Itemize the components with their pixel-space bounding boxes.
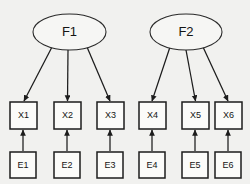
- error-node-e2[interactable]: E2: [54, 152, 80, 178]
- error-node-e6[interactable]: E6: [215, 152, 241, 178]
- observed-node-label: X6: [223, 110, 234, 120]
- diagram-canvas: F1F2 X1X2X3X4X5X6 E1E2E3E4E5E6: [0, 0, 250, 184]
- loading-path-f2-to-x4: [152, 47, 170, 101]
- latent-node-f1[interactable]: F1: [33, 14, 106, 50]
- observed-node-x2[interactable]: X2: [54, 102, 81, 129]
- latent-factor-nodes: F1F2: [33, 14, 222, 50]
- error-node-label: E3: [104, 160, 115, 170]
- loading-path-f2-to-x5: [186, 50, 196, 101]
- loading-path-f1-to-x1: [24, 47, 52, 101]
- observed-node-x1[interactable]: X1: [10, 102, 37, 129]
- observed-variable-nodes: X1X2X3X4X5X6: [10, 102, 242, 129]
- observed-node-label: X3: [105, 110, 116, 120]
- loading-path-f1-to-x2: [68, 50, 69, 101]
- factor-loading-paths: [24, 47, 228, 101]
- loading-path-f1-to-x3: [87, 47, 110, 101]
- observed-node-x3[interactable]: X3: [97, 102, 124, 129]
- error-node-e1[interactable]: E1: [10, 152, 36, 178]
- observed-node-x5[interactable]: X5: [182, 102, 209, 129]
- latent-node-f2[interactable]: F2: [150, 14, 222, 50]
- observed-node-label: X4: [147, 110, 158, 120]
- observed-node-label: X5: [190, 110, 201, 120]
- observed-node-label: X2: [62, 110, 73, 120]
- sem-path-diagram: F1F2 X1X2X3X4X5X6 E1E2E3E4E5E6: [0, 0, 250, 184]
- error-node-e5[interactable]: E5: [182, 152, 208, 178]
- error-variance-paths: [23, 130, 228, 151]
- latent-node-label: F1: [62, 24, 77, 39]
- error-node-label: E1: [17, 160, 28, 170]
- observed-node-x4[interactable]: X4: [139, 102, 166, 129]
- error-node-e4[interactable]: E4: [139, 152, 165, 178]
- observed-node-label: X1: [18, 110, 29, 120]
- latent-node-label: F2: [178, 24, 193, 39]
- error-node-label: E2: [61, 160, 72, 170]
- error-node-label: E4: [146, 160, 157, 170]
- error-node-label: E5: [189, 160, 200, 170]
- error-node-label: E6: [222, 160, 233, 170]
- error-term-nodes: E1E2E3E4E5E6: [10, 152, 241, 178]
- observed-node-x6[interactable]: X6: [215, 102, 242, 129]
- error-node-e3[interactable]: E3: [97, 152, 123, 178]
- loading-path-f2-to-x6: [203, 47, 228, 101]
